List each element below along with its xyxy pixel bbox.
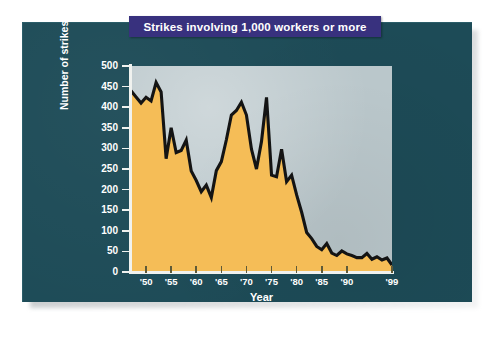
x-axis-tick (170, 266, 172, 273)
y-axis-tick-label: 50 (84, 245, 118, 256)
y-axis-tick (122, 65, 130, 67)
area-chart-svg (131, 66, 392, 272)
chart-title: Strikes involving 1,000 workers or more (143, 21, 366, 33)
y-axis-tick (122, 168, 130, 170)
x-axis-tick (391, 266, 393, 273)
x-axis-tick-label: '99 (377, 276, 407, 287)
x-axis-tick (296, 266, 298, 273)
y-axis-tick-label: 0 (84, 266, 118, 277)
y-axis-tick-label: 400 (84, 101, 118, 112)
area-fill-path (131, 82, 392, 272)
y-axis-tick-label: 450 (84, 81, 118, 92)
x-axis-tick (221, 266, 223, 273)
y-axis-tick (122, 271, 130, 273)
plot-area (131, 66, 392, 272)
y-axis-title: Number of strikes (58, 21, 70, 110)
y-axis-tick (122, 251, 130, 253)
y-axis-tick-label: 350 (84, 122, 118, 133)
chart-title-bar: Strikes involving 1,000 workers or more (129, 16, 381, 37)
y-axis-tick-label: 150 (84, 204, 118, 215)
y-axis-tick (122, 127, 130, 129)
y-axis-tick (122, 148, 130, 150)
y-axis-tick-label: 300 (84, 142, 118, 153)
y-axis-tick-label: 200 (84, 184, 118, 195)
x-axis-tick-label: '90 (332, 276, 362, 287)
x-axis-tick (145, 266, 147, 273)
y-axis-tick-labels: 050100150200250300350400450500 (84, 0, 118, 341)
y-axis-tick-label: 100 (84, 225, 118, 236)
x-axis-title: Year (131, 291, 392, 303)
y-axis-tick (122, 230, 130, 232)
y-axis-tick (122, 86, 130, 88)
x-axis-tick (271, 266, 273, 273)
screenshot-root: Strikes involving 1,000 workers or more … (0, 0, 498, 341)
x-axis-tick (195, 266, 197, 273)
x-axis-tick (346, 266, 348, 273)
y-axis-tick-label: 250 (84, 163, 118, 174)
y-axis-tick (122, 106, 130, 108)
x-axis-tick (246, 266, 248, 273)
x-axis-line (129, 271, 394, 274)
y-axis-tick-label: 500 (84, 60, 118, 71)
y-axis-tick (122, 209, 130, 211)
y-axis-tick (122, 189, 130, 191)
x-axis-tick (321, 266, 323, 273)
